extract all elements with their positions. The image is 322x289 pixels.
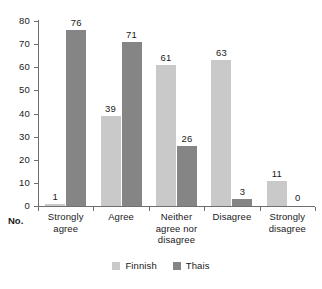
y-tick-label: 50 [4, 85, 30, 95]
y-tick-mark [34, 44, 38, 45]
x-category-label: Agree [89, 211, 152, 223]
y-tick-label: 30 [4, 132, 30, 142]
legend-label-finnish: Finnish [125, 261, 156, 271]
bar-thais [177, 146, 197, 206]
y-axis-line [38, 20, 39, 207]
bar-value-label: 63 [203, 48, 239, 58]
x-category-label: Disagree [200, 211, 263, 223]
y-tick-mark [34, 183, 38, 184]
bar-value-label: 0 [280, 193, 316, 203]
y-tick-label: 10 [4, 178, 30, 188]
bar-finnish [101, 116, 121, 206]
x-category-label: Stronglyagree [34, 211, 97, 234]
y-tick-mark [34, 67, 38, 68]
legend-item-thais: Thais [173, 261, 210, 271]
bar-thais [66, 30, 86, 206]
y-tick-mark [34, 160, 38, 161]
y-tick-mark [34, 137, 38, 138]
bar-finnish [45, 204, 65, 206]
x-axis-line [38, 206, 315, 207]
y-tick-label: 70 [4, 39, 30, 49]
legend-swatch-icon-thais [173, 262, 181, 270]
bar-value-label: 26 [169, 134, 205, 144]
y-tick-label: 40 [4, 109, 30, 119]
bar-chart: 01020304050607080 13961631176712630 Stro… [0, 0, 322, 289]
bar-value-label: 71 [114, 30, 150, 40]
y-tick-mark [34, 21, 38, 22]
chart-legend: Finnish Thais [0, 261, 322, 271]
y-tick-mark [34, 114, 38, 115]
bar-value-label: 3 [224, 187, 260, 197]
legend-item-finnish: Finnish [112, 261, 156, 271]
axis-no-label: No. [8, 216, 23, 226]
legend-label-thais: Thais [186, 261, 210, 271]
bar-finnish [211, 60, 231, 206]
bar-thais [232, 199, 252, 206]
bar-value-label: 76 [58, 18, 94, 28]
y-tick-label: 0 [4, 201, 30, 211]
y-tick-label: 20 [4, 155, 30, 165]
y-tick-label: 60 [4, 62, 30, 72]
bar-thais [122, 42, 142, 206]
legend-swatch-icon-finnish [112, 262, 120, 270]
x-category-label: Stronglydisagree [256, 211, 319, 234]
y-tick-mark [34, 90, 38, 91]
bar-value-label: 11 [259, 169, 295, 179]
y-tick-label: 80 [4, 16, 30, 26]
x-category-label: Neitheragree nordisagree [145, 211, 208, 246]
bar-value-label: 61 [148, 53, 184, 63]
